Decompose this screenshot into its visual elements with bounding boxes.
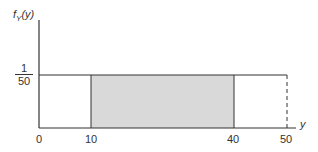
shaded-region [91,75,234,128]
x-tick-50: 50 [280,133,292,145]
y-axis-label: fY(y) [13,8,34,23]
x-axis-label: y [300,118,306,130]
y-tick-1-50: 1 50 [15,62,33,87]
x-tick-40: 40 [227,133,239,145]
x-tick-10: 10 [85,133,97,145]
x-tick-0: 0 [36,133,42,145]
chart-canvas [0,0,318,152]
